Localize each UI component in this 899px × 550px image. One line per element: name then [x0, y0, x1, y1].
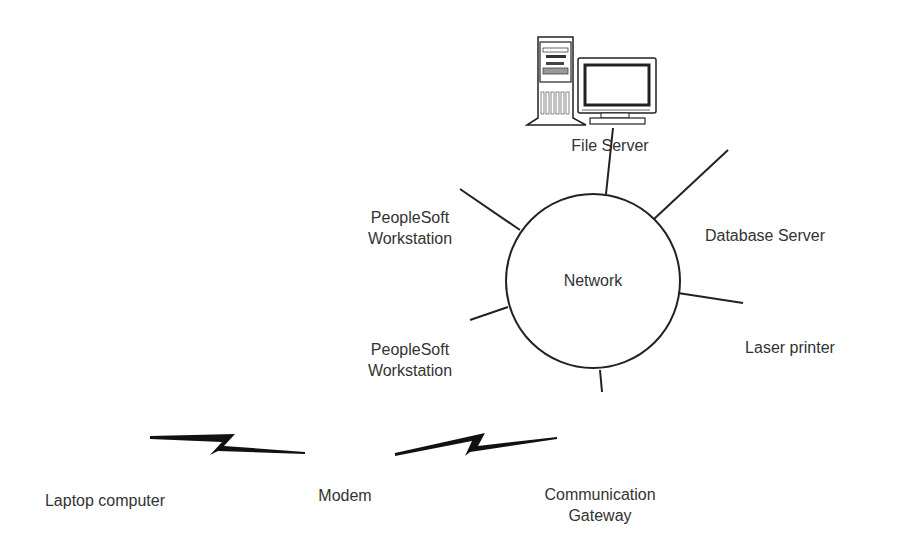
edge-communication-gateway [600, 370, 602, 392]
gateway-label-line1: Communication [530, 484, 670, 505]
file-server-icon[interactable] [527, 37, 656, 125]
laser-printer-label: Laser printer [730, 337, 850, 358]
edge-workstation-2 [470, 307, 508, 320]
file-server-label: File Server [555, 135, 665, 156]
workstation-2-label-line2: Workstation [345, 360, 475, 381]
gateway-label-line2: Gateway [530, 505, 670, 526]
network-label: Network [553, 270, 633, 291]
workstation-1-label-line1: PeopleSoft [345, 207, 475, 228]
dialup-link-laptop-modem [150, 434, 305, 455]
workstation-2-label-line1: PeopleSoft [345, 339, 475, 360]
laptop-label: Laptop computer [30, 490, 180, 511]
workstation-1-label-line2: Workstation [345, 228, 475, 249]
dialup-link-modem-gateway [395, 433, 557, 456]
database-server-label: Database Server [690, 225, 840, 246]
network-diagram [0, 0, 899, 550]
edge-laser-printer [678, 293, 743, 303]
edge-database-server [654, 150, 728, 219]
modem-label: Modem [300, 485, 390, 506]
